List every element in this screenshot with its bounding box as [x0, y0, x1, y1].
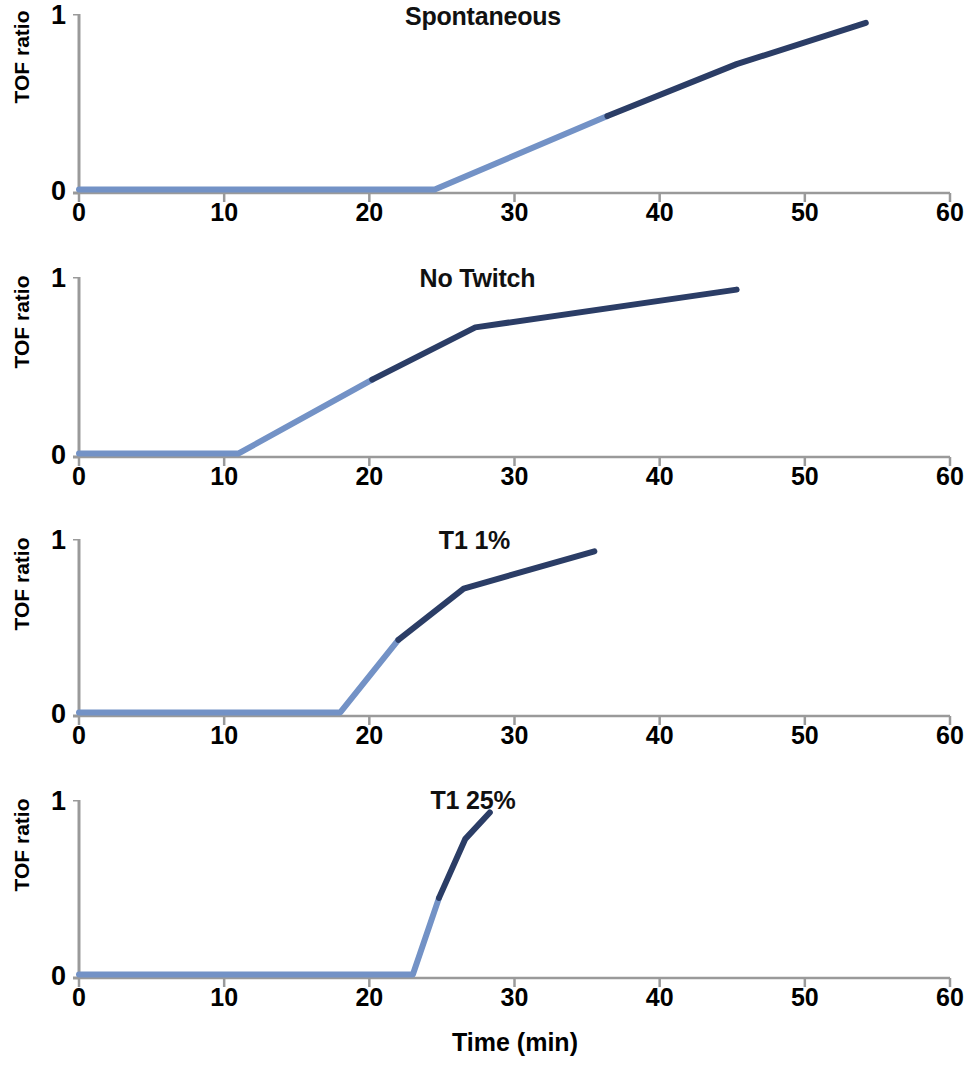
panel-title: No Twitch [405, 264, 550, 293]
data-line-late-phase [398, 551, 594, 640]
x-tick-label: 0 [49, 983, 109, 1012]
x-tick-label: 30 [485, 983, 545, 1012]
x-tick-label: 40 [630, 462, 690, 491]
x-tick-label: 20 [339, 198, 399, 227]
panel-title: T1 25% [422, 786, 524, 815]
plot-area [0, 277, 960, 475]
x-tick-label: 40 [630, 721, 690, 750]
x-tick-label: 60 [920, 721, 968, 750]
x-tick-label: 40 [630, 983, 690, 1012]
x-tick-label: 30 [485, 462, 545, 491]
data-line-early-phase [79, 898, 439, 975]
x-tick-label: 60 [920, 198, 968, 227]
x-tick-label: 0 [49, 462, 109, 491]
x-tick-label: 50 [775, 721, 835, 750]
x-tick-label: 60 [920, 983, 968, 1012]
x-tick-label: 20 [339, 462, 399, 491]
data-line-early-phase [79, 380, 372, 454]
x-tick-label: 50 [775, 198, 835, 227]
x-tick-label: 40 [630, 198, 690, 227]
y-tick-label-top: 1 [24, 263, 66, 294]
panel-title: Spontaneous [398, 2, 568, 31]
x-tick-label: 30 [485, 721, 545, 750]
y-tick-label-top: 1 [24, 786, 66, 817]
x-tick-label: 10 [194, 198, 254, 227]
y-tick-label-top: 1 [24, 525, 66, 556]
x-tick-label: 50 [775, 462, 835, 491]
x-tick-label: 10 [194, 721, 254, 750]
x-tick-label: 30 [485, 198, 545, 227]
plot-area [0, 14, 960, 211]
data-line-late-phase [607, 23, 865, 116]
x-tick-label: 0 [49, 721, 109, 750]
x-tick-label: 10 [194, 983, 254, 1012]
x-tick-label: 20 [339, 983, 399, 1012]
x-tick-label: 0 [49, 198, 109, 227]
data-line-early-phase [79, 116, 607, 189]
x-tick-label: 60 [920, 462, 968, 491]
panel-title: T1 1% [432, 526, 517, 555]
data-line-late-phase [439, 812, 490, 897]
x-tick-label: 10 [194, 462, 254, 491]
x-tick-label: 50 [775, 983, 835, 1012]
x-axis-title: Time (min) [440, 1028, 590, 1057]
plot-area [0, 539, 960, 734]
y-tick-label-top: 1 [24, 0, 66, 31]
data-line-late-phase [372, 290, 736, 380]
data-line-early-phase [79, 640, 398, 713]
plot-area [0, 800, 960, 996]
x-tick-label: 20 [339, 721, 399, 750]
